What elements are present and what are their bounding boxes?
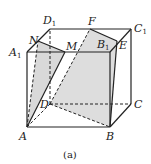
- label-n: N: [28, 34, 39, 47]
- figure-caption: (a): [63, 149, 77, 160]
- label-d: D: [39, 98, 49, 111]
- label-b: B: [105, 130, 114, 143]
- label-m: M: [65, 40, 78, 53]
- label-e: E: [118, 39, 127, 52]
- label-d1: D1: [42, 14, 56, 28]
- label-a: A: [18, 130, 27, 143]
- plane-anm: [27, 41, 65, 127]
- cube-diagram: A B C D A1 B1 C1 D1 N M F E (a): [0, 0, 151, 164]
- label-c1: C1: [134, 22, 147, 36]
- label-c: C: [134, 98, 143, 111]
- label-a1: A1: [8, 46, 21, 60]
- label-f: F: [87, 15, 96, 28]
